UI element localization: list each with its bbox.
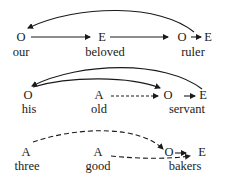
node-symbol: A [21, 146, 30, 159]
arrow-his-servant [33, 79, 160, 88]
node-symbol: O [163, 89, 172, 102]
node-symbol: E [98, 31, 106, 44]
node-symbol: O [164, 146, 173, 159]
node-symbol: E [204, 31, 212, 44]
node-symbol: O [177, 31, 186, 44]
arrow-servant-his [32, 68, 202, 89]
node-symbol: A [93, 146, 102, 159]
node-word: good [86, 160, 111, 173]
node-word: bakers [169, 160, 202, 173]
node-word: three [15, 160, 40, 173]
node-word: our [13, 46, 30, 59]
node-word: beloved [85, 46, 125, 59]
arrow-good-bakers [111, 156, 190, 158]
node-symbol: A [94, 89, 103, 102]
node-word: servant [169, 103, 205, 116]
node-symbol: O [23, 89, 32, 102]
node-symbol: E [198, 146, 206, 159]
node-word: old [91, 103, 107, 116]
arrow-ruler-our [28, 10, 194, 32]
node-symbol: O [16, 31, 25, 44]
node-symbol: E [199, 89, 207, 102]
node-word: his [22, 103, 37, 116]
node-word: ruler [181, 46, 205, 59]
